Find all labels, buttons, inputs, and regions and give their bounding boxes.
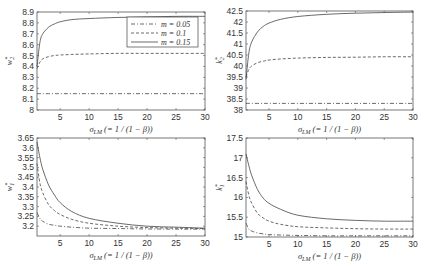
y-tick-label: 15.5 [226, 212, 243, 222]
x-tick-label: 10 [84, 112, 94, 122]
x-tick-label: 25 [171, 238, 181, 248]
x-tick-label: 20 [142, 238, 152, 248]
y-tick-label: 3.25 [17, 211, 34, 221]
x-tick-label: 5 [58, 112, 63, 122]
y-tick-label: 3.4 [22, 182, 34, 192]
y-tick-label: 41.5 [226, 28, 243, 38]
y-tick-label: 8.6 [22, 40, 34, 50]
legend: m = 0.05m = 0.1m = 0.15 [127, 17, 198, 47]
x-tick-label: 30 [408, 112, 418, 122]
x-tick-label: 10 [84, 238, 94, 248]
x-tick-label: 20 [351, 239, 361, 249]
y-tick-label: 3.35 [17, 192, 34, 202]
y-tick-label: 42 [234, 17, 244, 27]
x-axis-label: σLM (= 1 / (1 − β)) [89, 250, 152, 261]
y-axis-label: w*1 [4, 183, 15, 191]
y-tick-label: 3.45 [17, 172, 34, 182]
x-tick-label: 15 [322, 112, 332, 122]
x-tick-label: 25 [171, 112, 181, 122]
y-tick-label: 16.5 [226, 173, 243, 183]
y-tick-label: 8.2 [22, 83, 34, 93]
y-tick-label: 39 [234, 83, 244, 93]
y-tick-label: 41 [234, 39, 244, 49]
y-tick-label: 17.5 [226, 133, 243, 143]
x-tick-label: 5 [267, 239, 272, 249]
y-tick-label: 8.3 [22, 72, 34, 82]
figure: 5101520253088.18.28.38.48.58.68.78.88.9σ… [0, 0, 425, 266]
x-tick-label: 30 [200, 112, 210, 122]
y-tick-label: 3.2 [22, 221, 34, 231]
y-tick-label: 17 [234, 153, 244, 163]
y-tick-label: 8.9 [22, 7, 34, 17]
x-tick-label: 10 [293, 112, 303, 122]
panel-k1: 510152025301515.51616.51717.5σLM (= 1 / … [214, 133, 418, 262]
y-tick-label: 40 [234, 61, 244, 71]
y-axis-label: k*1 [214, 184, 225, 191]
y-tick-label: 3.3 [22, 202, 34, 212]
y-tick-label: 39.5 [226, 72, 243, 82]
y-tick-label: 40.5 [226, 50, 243, 60]
x-tick-label: 15 [322, 239, 332, 249]
x-tick-label: 15 [113, 238, 123, 248]
y-tick-label: 8.1 [22, 94, 34, 104]
x-axis-label: σLM (= 1 / (1 − β)) [89, 124, 152, 135]
y-tick-label: 8.7 [22, 29, 34, 39]
y-tick-label: 38 [234, 105, 244, 115]
panel-w1: 510152025303.23.253.33.353.43.453.53.553… [4, 133, 210, 261]
y-tick-label: 38.5 [226, 94, 243, 104]
x-tick-label: 25 [379, 239, 389, 249]
y-tick-label: 42.5 [226, 6, 243, 16]
y-tick-label: 16 [234, 192, 244, 202]
legend-entry: m = 0.05 [161, 20, 190, 29]
x-tick-label: 15 [113, 112, 123, 122]
y-tick-label: 3.6 [22, 143, 34, 153]
legend-entry: m = 0.1 [161, 29, 186, 38]
x-tick-label: 5 [267, 112, 272, 122]
x-axis-label: σLM (= 1 / (1 − β)) [298, 124, 361, 135]
y-tick-label: 15 [234, 232, 244, 242]
x-tick-label: 10 [293, 239, 303, 249]
panel-k2: 510152025303838.53939.54040.54141.54242.… [214, 6, 418, 135]
axes-box [246, 11, 413, 110]
x-tick-label: 25 [379, 112, 389, 122]
x-tick-label: 20 [351, 112, 361, 122]
y-axis-label: w*2 [4, 57, 15, 65]
y-axis-label: k*2 [214, 57, 225, 64]
y-tick-label: 3.55 [17, 153, 34, 163]
y-tick-label: 3.5 [22, 162, 34, 172]
y-tick-label: 8.4 [22, 61, 34, 71]
x-tick-label: 20 [142, 112, 152, 122]
y-tick-label: 8.8 [22, 18, 34, 28]
x-tick-label: 30 [408, 239, 418, 249]
y-tick-label: 3.65 [17, 133, 34, 143]
x-tick-label: 30 [200, 238, 210, 248]
y-tick-label: 8.5 [22, 51, 34, 61]
axes-box [37, 138, 205, 236]
y-tick-label: 8 [29, 105, 34, 115]
x-tick-label: 5 [58, 238, 63, 248]
x-axis-label: σLM (= 1 / (1 − β)) [298, 251, 361, 262]
legend-entry: m = 0.15 [161, 38, 190, 47]
